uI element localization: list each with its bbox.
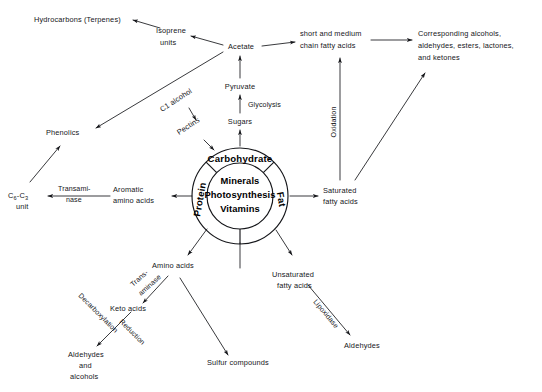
node-phenolics: Phenolics [46,128,80,137]
node-unsaturated-fatty-acids-line2: fatty acids [277,281,312,290]
node-isoprene-units-line2: units [160,38,177,47]
edge-labels-layer: Glycolysis Oxidation Transami- nase Lipo… [58,101,340,347]
edge-protein-to-amino-acids [188,229,207,255]
node-aldehydes-alcohols-line1: Aldehydes [68,350,104,359]
node-aromatic-amino-acids-line2: amino acids [113,196,154,205]
node-corresponding-products-line3: and ketones [418,53,460,62]
core-label-minerals: Minerals [221,175,260,186]
c6c3-subscript-3: 3 [25,195,28,201]
core-label-photosynthesis: Photosynthesis [204,189,275,200]
edge-acetate-to-short-medium-chain [262,42,295,46]
node-short-medium-chain-line2: chain fatty acids [300,41,356,50]
edge-c6c3-to-phenolics [30,146,60,182]
node-aldehydes-right: Aldehydes [344,341,380,350]
edge-saturated-to-corresponding [355,73,425,180]
edge-acetate-to-isoprene [191,36,223,45]
node-sulfur-compounds: Sulfur compounds [207,358,269,367]
node-isoprene-units-line1: Isoprene [156,26,186,35]
edge-label-transaminase-line1: Transami- [58,185,91,193]
node-aldehydes-alcohols-line3: alcohols [70,372,98,381]
node-pyruvate: Pyruvate [225,82,255,91]
node-short-medium-chain-line1: short and medium [300,29,362,38]
node-acetate: Acetate [228,42,254,51]
node-saturated-fatty-acids-line2: fatty acids [323,197,358,206]
node-aromatic-amino-acids-line1: Aromatic [113,185,144,194]
edge-fat-to-unsaturated [276,230,292,255]
node-c6-c3-unit-word: unit [16,202,29,211]
core-label-vitamins: Vitamins [220,203,260,214]
metabolic-pathway-diagram: Carbohydrate Fat Protein Minerals Photos… [0,0,542,392]
diagram-canvas: Carbohydrate Fat Protein Minerals Photos… [0,0,542,392]
node-sugars: Sugars [228,117,252,126]
edge-unsaturated-to-aldehydes [308,285,350,335]
edge-label-reduction: Reduction [118,318,147,347]
node-keto-acids: Keto acids [110,304,146,313]
node-pectins: Pectins [175,115,201,136]
edge-pectins-to-carbohydrate [204,140,214,150]
node-corresponding-products-line1: Corresponding alcohols, [418,29,501,38]
edge-acetate-to-phenolics [96,52,223,128]
node-saturated-fatty-acids-line1: Saturated [323,186,356,195]
node-c6-c3-unit: C6-C3 [8,191,28,201]
edge-label-lipoxidase: Lipoxidase [311,298,340,330]
edge-label-decarboxylation: Decarboxylation [77,292,120,335]
ring-label-fat: Fat [275,191,289,208]
node-hydrocarbons-terpenes: Hydrocarbons (Terpenes) [34,15,121,24]
central-wheel: Carbohydrate Fat Protein Minerals Photos… [191,148,288,244]
edge-amino-acids-to-sulfur [180,278,228,355]
edge-label-oxidation: Oxidation [330,107,338,138]
edge-label-glycolysis: Glycolysis [248,101,281,109]
node-amino-acids: Amino acids [152,261,194,270]
node-corresponding-products-line2: aldehydes, esters, lactones, [418,41,514,50]
ring-label-carbohydrate: Carbohydrate [208,153,273,164]
node-c1-alcohol: C1 alcohol [158,86,194,113]
edge-label-transaminase-line2: nase [66,196,82,204]
node-unsaturated-fatty-acids-line1: Unsaturated [272,270,314,279]
node-aldehydes-alcohols-line2: and [79,361,92,370]
